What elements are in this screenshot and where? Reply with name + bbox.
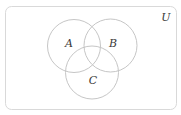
set-a-label: A bbox=[64, 37, 73, 50]
universe-label: U bbox=[161, 11, 171, 24]
set-c-label: C bbox=[89, 74, 98, 87]
venn-diagram: A B C U bbox=[0, 0, 181, 115]
set-b-label: B bbox=[108, 37, 117, 50]
universe-rectangle bbox=[6, 7, 177, 110]
